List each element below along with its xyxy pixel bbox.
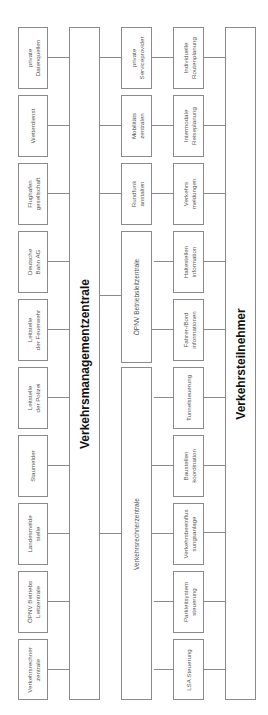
source-label: Leitstelle der Polizei bbox=[26, 384, 41, 413]
connector bbox=[100, 533, 122, 534]
connector bbox=[154, 397, 174, 398]
source-box-flughafengesellschaft: Flughafen gesellschaft bbox=[18, 163, 48, 225]
service-label: Fahrer-/Bord informationen bbox=[181, 311, 196, 349]
service-box-haltestelleninformation: Haltestellen information bbox=[173, 231, 204, 293]
connector bbox=[204, 532, 226, 533]
operator-box-private-serviceprovider: private Serviceprovider bbox=[121, 27, 152, 89]
operator-box-opnv-betriebsleitzentrale: ÖPNV Betriebsleitzentrale bbox=[121, 231, 152, 363]
connector bbox=[48, 601, 70, 602]
source-box-deutsche-bahn: Deutsche Bahn AG bbox=[18, 231, 48, 293]
source-label: Leitstelle der Feuerwehr bbox=[26, 310, 41, 350]
connector bbox=[154, 261, 174, 262]
connector bbox=[154, 669, 174, 670]
source-label: private Datenquellen bbox=[26, 40, 41, 76]
source-box-leitstelle-polizei: Leitstelle der Polizei bbox=[18, 367, 48, 429]
source-box-staumelder: Staumelder bbox=[18, 435, 48, 497]
connector bbox=[48, 125, 70, 126]
verkehrsteilnehmer-title: Verkehrsteilnehmer bbox=[234, 308, 247, 419]
source-label: Deutsche Bahn AG bbox=[26, 249, 41, 275]
source-label: Flughafen gesellschaft bbox=[26, 178, 41, 211]
operator-box-mobilitaetszentralen: Mobilitäts zentralen bbox=[121, 95, 152, 157]
connector bbox=[152, 193, 174, 194]
source-label: Staumelder bbox=[29, 450, 37, 482]
verkehrsteilnehmer-bar: Verkehrsteilnehmer bbox=[225, 27, 256, 700]
service-box-verkehrsmeldungen: Verkehrs meldungen bbox=[173, 163, 204, 225]
source-label: Verkehrsrechner zentrale bbox=[26, 647, 41, 692]
connector bbox=[152, 533, 174, 534]
operator-label: Mobilitäts zentralen bbox=[129, 113, 144, 139]
vmz-title: Verkehrsmanagementzentrale bbox=[78, 278, 91, 448]
service-label: LSA Steuerung bbox=[185, 649, 193, 691]
service-label: Parkleitsystem steuerung bbox=[181, 582, 196, 622]
verkehrsmanagementzentrale-bar: Verkehrsmanagementzentrale bbox=[69, 27, 100, 700]
service-label: Individuelle Routenplanung bbox=[181, 37, 196, 79]
source-label: Wetterdienst bbox=[29, 109, 37, 144]
connector bbox=[204, 193, 226, 194]
connector bbox=[204, 601, 226, 602]
source-label: Landesmelde stelle bbox=[26, 515, 41, 552]
connector bbox=[204, 125, 226, 126]
source-box-verkehrsrechnerzentrale: Verkehrsrechner zentrale bbox=[18, 639, 48, 700]
connector bbox=[152, 329, 174, 330]
source-box-wetterdienst: Wetterdienst bbox=[18, 95, 48, 157]
service-label: Verkehrsbeeinflus sungsanlage bbox=[181, 509, 196, 558]
source-box-private-datenquellen: private Datenquellen bbox=[18, 27, 48, 89]
service-label: Haltestellen information bbox=[181, 246, 196, 278]
operator-box-rundfunkanstalten: Rundfunk anstalten bbox=[121, 163, 152, 225]
service-box-baustellenkoordination: Baustellen koordination bbox=[173, 435, 204, 497]
connector bbox=[152, 465, 174, 466]
connector bbox=[204, 465, 226, 466]
connector bbox=[100, 57, 122, 58]
connector bbox=[204, 329, 226, 330]
connector bbox=[100, 295, 122, 296]
connector bbox=[48, 397, 70, 398]
connector bbox=[48, 329, 70, 330]
connector bbox=[152, 125, 174, 126]
service-label: Verkehrs meldungen bbox=[181, 179, 196, 210]
connector bbox=[154, 601, 174, 602]
source-box-leitstelle-feuerwehr: Leitstelle der Feuerwehr bbox=[18, 299, 48, 361]
connector bbox=[204, 397, 226, 398]
connector bbox=[48, 57, 70, 58]
connector bbox=[152, 57, 174, 58]
connector bbox=[48, 193, 70, 194]
operator-label: private Serviceprovider bbox=[129, 37, 144, 80]
source-box-landesmeldestelle: Landesmelde stelle bbox=[18, 503, 48, 565]
service-box-intermodale-reiseplanung: Intermodale Reiseplanung bbox=[173, 95, 204, 157]
connector bbox=[204, 261, 226, 262]
source-box-opnv-leitzentrale: ÖPNV Betriebs Leitzentrale bbox=[18, 571, 48, 633]
connector bbox=[204, 57, 226, 58]
service-label: Baustellen koordination bbox=[181, 449, 196, 483]
source-label: ÖPNV Betriebs Leitzentrale bbox=[26, 581, 41, 623]
operator-label: Verkehrsrechnerzentrale bbox=[133, 498, 141, 570]
operator-label: Rundfunk anstalten bbox=[129, 181, 144, 208]
connector bbox=[204, 669, 226, 670]
service-box-parkleitsystemsteuerung: Parkleitsystem steuerung bbox=[173, 571, 204, 633]
connector bbox=[48, 261, 70, 262]
service-box-individuelle-routenplanung: Individuelle Routenplanung bbox=[173, 27, 204, 89]
operator-box-verkehrsrechnerzentrale: Verkehrsrechnerzentrale bbox=[121, 367, 152, 700]
service-box-lsa-steuerung: LSA Steuerung bbox=[173, 639, 204, 700]
connector bbox=[100, 193, 122, 194]
service-label: Intermodale Reiseplanung bbox=[181, 107, 196, 145]
service-box-verkehrsbeeinflussungsanlage: Verkehrsbeeinflus sungsanlage bbox=[173, 503, 204, 565]
service-label: Tunnelsteuerung bbox=[185, 375, 193, 421]
connector bbox=[48, 533, 70, 534]
operator-label: ÖPNV Betriebsleitzentrale bbox=[133, 259, 141, 336]
service-box-fahrer-bordinformationen: Fahrer-/Bord informationen bbox=[173, 299, 204, 361]
connector bbox=[48, 669, 70, 670]
connector bbox=[48, 465, 70, 466]
service-box-tunnelsteuerung: Tunnelsteuerung bbox=[173, 367, 204, 429]
connector bbox=[100, 125, 122, 126]
